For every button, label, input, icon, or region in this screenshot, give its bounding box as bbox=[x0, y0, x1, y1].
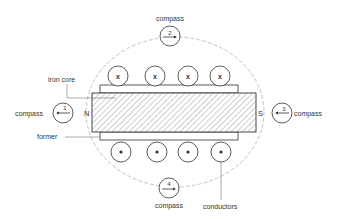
conductor-out-of-page bbox=[111, 142, 131, 162]
solenoid-diagram: x x x x N bbox=[0, 0, 345, 219]
conductor-into-page: x bbox=[210, 66, 230, 86]
compass-label: compass bbox=[155, 202, 184, 210]
compass-1: compass 1 bbox=[15, 103, 73, 123]
compass-label: compass bbox=[156, 15, 185, 23]
x-mark: x bbox=[186, 73, 190, 80]
conductors-top: x x x x bbox=[108, 66, 230, 86]
dot-mark bbox=[119, 150, 122, 153]
conductor-into-page: x bbox=[108, 66, 128, 86]
compass-4: 4 compass bbox=[155, 178, 184, 210]
conductor-into-page: x bbox=[178, 66, 198, 86]
conductor-out-of-page bbox=[147, 142, 167, 162]
compass-label: compass bbox=[294, 110, 323, 118]
south-pole-label: S bbox=[258, 109, 263, 118]
conductor-out-of-page bbox=[211, 142, 231, 162]
conductor-into-page: x bbox=[145, 66, 165, 86]
compass-3: 3 compass bbox=[272, 103, 323, 123]
conductors-label: conductors bbox=[203, 203, 238, 210]
former-bottom bbox=[100, 132, 238, 140]
dot-mark bbox=[186, 150, 189, 153]
compass-2: compass 2 bbox=[156, 15, 185, 46]
former-label: former bbox=[37, 133, 58, 140]
conductors-bottom bbox=[111, 142, 231, 162]
conductor-out-of-page bbox=[178, 142, 198, 162]
iron-core-label: iron core bbox=[48, 76, 75, 83]
x-mark: x bbox=[116, 73, 120, 80]
x-mark: x bbox=[218, 73, 222, 80]
dot-mark bbox=[155, 150, 158, 153]
former-top bbox=[100, 85, 238, 93]
compass-label: compass bbox=[15, 110, 44, 118]
iron-core-hatching bbox=[92, 93, 256, 132]
north-pole-label: N bbox=[84, 109, 89, 118]
x-mark: x bbox=[153, 73, 157, 80]
dot-mark bbox=[219, 150, 222, 153]
